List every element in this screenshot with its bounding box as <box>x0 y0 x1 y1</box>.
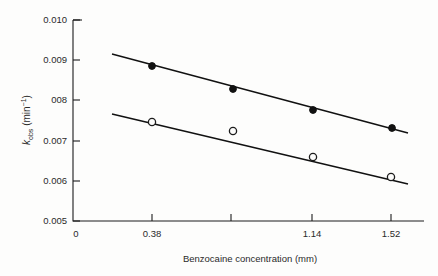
y-tick-label: 0.010 <box>43 14 67 25</box>
data-point <box>389 125 396 132</box>
series-open-circles-markers <box>148 118 394 180</box>
x-axis-title: Benzocaine concentration (mm) <box>183 253 317 264</box>
y-tick-label: 0.006 <box>43 175 67 186</box>
series-open-circles-line <box>112 114 408 184</box>
data-point <box>387 173 394 180</box>
y-axis-ticks <box>73 20 80 221</box>
data-point <box>310 107 317 114</box>
y-tick-label: 008 <box>51 94 67 105</box>
data-point <box>230 86 237 93</box>
chart-figure: 0.010 0.009 008 0.007 0.006 0.005 0 0.38… <box>0 0 438 276</box>
x-tick-label: 0.38 <box>143 228 162 239</box>
data-point <box>149 63 156 70</box>
y-axis-title-subscript: obs <box>27 128 34 140</box>
x-axis-tick-labels: 0 0.38 1.14 1.52 <box>73 228 400 239</box>
x-tick-label: 1.52 <box>382 228 401 239</box>
y-axis-title-units-close: ) <box>21 95 32 98</box>
series-filled-circles-line <box>112 54 408 133</box>
axis-lines <box>73 20 424 221</box>
y-tick-label: 0.009 <box>43 54 67 65</box>
y-axis-title-superscript: −1 <box>20 98 27 106</box>
chart-canvas: 0.010 0.009 008 0.007 0.006 0.005 0 0.38… <box>0 0 438 276</box>
x-tick-label: 0 <box>73 228 78 239</box>
y-axis-title-units-open: (min <box>21 106 32 128</box>
data-point <box>148 118 155 125</box>
y-tick-label: 0.005 <box>43 215 67 226</box>
y-axis-tick-labels: 0.010 0.009 008 0.007 0.006 0.005 <box>43 14 67 226</box>
svg-text:kobs (min−1): kobs (min−1) <box>20 95 34 145</box>
x-axis-ticks <box>152 214 391 221</box>
y-tick-label: 0.007 <box>43 135 67 146</box>
x-tick-label: 1.14 <box>303 228 322 239</box>
y-axis-title: kobs (min−1) <box>20 95 34 145</box>
data-point <box>229 127 236 134</box>
data-point <box>309 153 316 160</box>
